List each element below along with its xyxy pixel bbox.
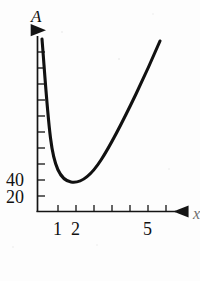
graph-canvas	[0, 0, 200, 281]
x-tick-label-2: 2	[71, 220, 80, 238]
x-axis-label: x	[193, 206, 200, 222]
figure-container: A x 40 20 1 2 5	[0, 0, 200, 281]
x-tick-label-5: 5	[143, 220, 152, 238]
x-tick-label-1: 1	[53, 220, 62, 238]
y-tick-label-20: 20	[6, 188, 24, 206]
y-axis-label: A	[31, 8, 41, 25]
curve-A-of-x	[42, 39, 160, 182]
x-axis-ticks	[58, 205, 166, 212]
